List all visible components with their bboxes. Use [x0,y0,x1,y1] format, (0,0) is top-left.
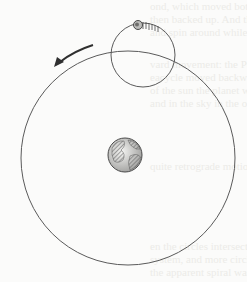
direction-arrow-icon [54,45,93,67]
epicycle-circle [111,23,175,87]
earth-icon [108,138,142,172]
epicycle-diagram [0,0,247,282]
planet-icon [134,21,143,30]
